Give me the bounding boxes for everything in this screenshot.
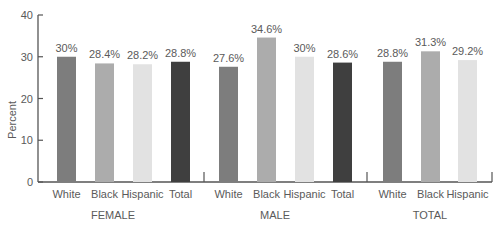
bar-value-label: 28.8%	[377, 47, 408, 59]
category-label: Hispanic	[446, 188, 489, 200]
bar-value-label: 28.4%	[89, 48, 120, 60]
bar-value-label: 27.6%	[213, 52, 244, 64]
category-label: Black	[417, 188, 444, 200]
bar-value-label: 28.6%	[327, 48, 358, 60]
category-label: White	[214, 188, 242, 200]
category-label: Black	[91, 188, 118, 200]
y-axis-label: Percent	[6, 101, 18, 139]
bar-value-label: 30%	[293, 42, 315, 54]
y-tick-label: 40	[21, 9, 33, 21]
bar-value-label: 30%	[55, 42, 77, 54]
bar-total-white	[383, 62, 402, 182]
category-label: Hispanic	[121, 188, 164, 200]
bar-chart: 010203040Percent 30%White28.4%Black28.2%…	[0, 0, 498, 227]
bar-value-label: 28.2%	[127, 49, 158, 61]
group-label: FEMALE	[91, 209, 135, 221]
bar-female-white	[57, 57, 76, 182]
bar-value-label: 31.3%	[415, 36, 446, 48]
group-label: TOTAL	[413, 209, 447, 221]
bar-value-label: 28.8%	[165, 47, 196, 59]
bar-female-hispanic	[133, 64, 152, 182]
bar-male-hispanic	[295, 57, 314, 182]
bar-male-black	[257, 38, 276, 182]
category-label: Black	[253, 188, 280, 200]
bar-female-total	[171, 62, 190, 182]
category-label: Total	[331, 188, 354, 200]
y-tick-label: 20	[21, 93, 33, 105]
category-label: White	[52, 188, 80, 200]
y-tick-label: 30	[21, 51, 33, 63]
bar-male-total	[333, 63, 352, 182]
bar-male-white	[219, 67, 238, 182]
y-tick-label: 10	[21, 134, 33, 146]
bar-total-hispanic	[458, 60, 477, 182]
bar-value-label: 29.2%	[452, 45, 483, 57]
y-tick-label: 0	[27, 176, 33, 188]
group-label: MALE	[260, 209, 290, 221]
category-label: Hispanic	[283, 188, 326, 200]
bar-total-black	[421, 51, 440, 182]
bar-female-black	[95, 63, 114, 182]
category-label: Total	[169, 188, 192, 200]
bar-value-label: 34.6%	[251, 23, 282, 35]
category-label: White	[378, 188, 406, 200]
